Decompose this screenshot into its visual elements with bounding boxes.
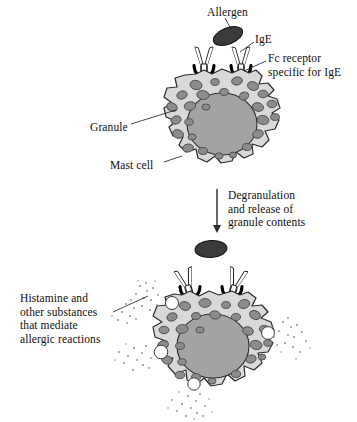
label-granule: Granule	[90, 121, 128, 135]
released-granule-4	[188, 378, 200, 390]
leader-fc	[244, 61, 266, 71]
label-degranulation: Degranulation and release of granule con…	[228, 189, 305, 230]
mast-cell-degranulation-figure: Allergen IgE Fc receptor specific for Ig…	[0, 0, 357, 422]
allergen-particle-bound	[194, 239, 227, 258]
allergen-particle-top	[211, 23, 246, 49]
leader-lines-bottom	[113, 296, 148, 312]
released-granule-3	[262, 327, 275, 340]
label-fc-receptor: Fc receptor specific for IgE	[268, 52, 341, 79]
leader-mastcell	[164, 156, 182, 162]
label-allergen: Allergen	[207, 6, 248, 20]
released-granule-2	[154, 345, 168, 359]
released-granule-1	[166, 297, 179, 310]
mast-cell-bottom	[153, 291, 274, 390]
mast-cell-top	[164, 69, 280, 163]
label-mast-cell: Mast cell	[110, 159, 153, 173]
degranulation-arrow	[213, 189, 221, 233]
leader-histamine	[113, 296, 148, 312]
panel-degranulating-mast-cell	[111, 239, 311, 419]
label-histamine: Histamine and other substances that medi…	[20, 292, 100, 346]
label-ige: IgE	[255, 33, 272, 47]
